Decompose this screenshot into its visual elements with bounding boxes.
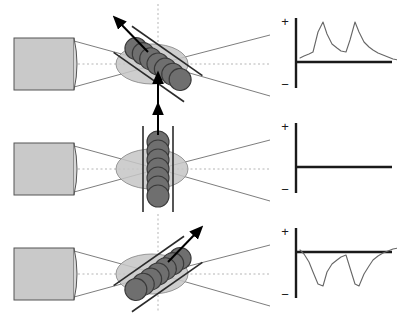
- panels-group: +−+−+−: [14, 4, 397, 312]
- light-source-box: [14, 143, 74, 195]
- axis-label-positive: +: [281, 14, 289, 29]
- lens-face: [74, 38, 77, 90]
- axis-label-positive: +: [281, 224, 289, 239]
- panel-vertical: +−: [14, 109, 392, 212]
- lens-face: [74, 143, 77, 195]
- trace-waveform: [300, 248, 397, 286]
- lens-face: [74, 248, 77, 300]
- response-trace-negative: +−: [281, 224, 397, 302]
- diagram-canvas: +−+−+−: [0, 0, 397, 317]
- light-source-box: [14, 248, 74, 300]
- axis-label-negative: −: [281, 182, 289, 197]
- axis-label-negative: −: [281, 287, 289, 302]
- cell-chain: [143, 126, 173, 212]
- response-trace-flat: +−: [281, 119, 392, 197]
- light-source-box: [14, 38, 74, 90]
- panel-tilt-left: +−: [14, 4, 397, 104]
- axis-label-negative: −: [281, 77, 289, 92]
- figure-root: +−+−+−: [0, 0, 397, 317]
- response-trace-positive: +−: [281, 14, 397, 92]
- trace-waveform: [300, 22, 397, 60]
- panel-tilt-right: +−: [14, 214, 397, 312]
- axis-label-positive: +: [281, 119, 289, 134]
- cell-segment: [147, 185, 169, 207]
